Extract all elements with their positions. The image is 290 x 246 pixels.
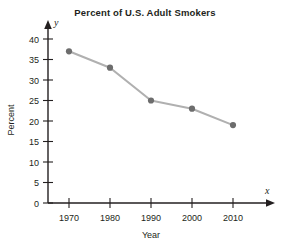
y-axis-title: Percent bbox=[6, 104, 16, 136]
x-tick-label: 1980 bbox=[100, 213, 120, 223]
data-point bbox=[189, 106, 195, 112]
y-tick-label: 35 bbox=[29, 55, 39, 65]
x-tick-label: 2000 bbox=[182, 213, 202, 223]
x-axis: x bbox=[48, 185, 275, 207]
x-axis-title: Year bbox=[142, 230, 160, 240]
y-tick-label: 40 bbox=[29, 35, 39, 45]
data-point bbox=[107, 65, 113, 71]
y-tick-label: 15 bbox=[29, 137, 39, 147]
chart-figure: Percent of U.S. Adult Smokers y x 0 5 10… bbox=[0, 0, 290, 246]
chart-plot-area: y x 0 5 10 15 20 25 30 35 bbox=[0, 0, 290, 246]
x-axis-ticks: 1970 1980 1990 2000 2010 bbox=[59, 198, 243, 223]
data-series-smokers bbox=[66, 48, 236, 128]
y-tick-label: 25 bbox=[29, 96, 39, 106]
x-tick-label: 2010 bbox=[223, 213, 243, 223]
x-axis-variable-label: x bbox=[264, 185, 270, 196]
x-tick-label: 1990 bbox=[141, 213, 161, 223]
y-axis-ticks: 0 5 10 15 20 25 30 35 40 bbox=[29, 35, 53, 209]
x-axis-arrow-icon bbox=[266, 199, 275, 207]
data-point bbox=[66, 48, 72, 54]
y-tick-label: 0 bbox=[34, 199, 39, 209]
y-tick-label: 5 bbox=[34, 178, 39, 188]
data-series-line bbox=[69, 51, 233, 125]
y-axis-arrow-icon bbox=[44, 20, 52, 29]
y-tick-label: 20 bbox=[29, 117, 39, 127]
x-tick-label: 1970 bbox=[59, 213, 79, 223]
y-axis: y bbox=[44, 17, 59, 203]
y-tick-label: 10 bbox=[29, 158, 39, 168]
y-axis-variable-label: y bbox=[53, 17, 59, 28]
data-point bbox=[148, 97, 154, 103]
y-tick-label: 30 bbox=[29, 76, 39, 86]
data-point bbox=[230, 122, 236, 128]
